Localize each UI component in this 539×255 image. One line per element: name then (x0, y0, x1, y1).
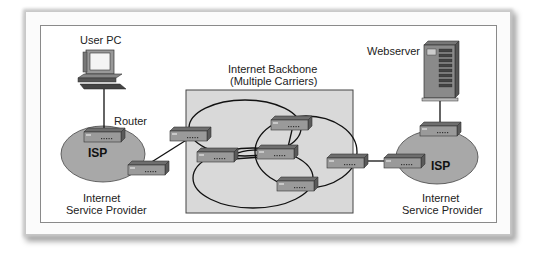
user-pc-icon (78, 50, 126, 89)
router-label: Router (114, 115, 147, 127)
backbone-router-2 (197, 148, 238, 162)
backbone-router-1 (170, 127, 211, 141)
webserver-label: Webserver (367, 45, 420, 57)
isp-right-caption-1: Internet (422, 192, 459, 204)
backbone-label-1: Internet Backbone (228, 63, 317, 75)
backbone-label-2: (Multiple Carriers) (230, 75, 317, 87)
isp-right-caption-2: Service Provider (402, 204, 483, 216)
isp-right-router-top (420, 122, 461, 136)
backbone-router-6 (277, 177, 318, 191)
backbone-router-3 (271, 116, 312, 130)
isp-right-label: ISP (431, 160, 450, 172)
backbone-router-4 (257, 145, 298, 159)
isp-right-router-edge (384, 154, 425, 168)
user-pc-label: User PC (80, 34, 122, 46)
isp-left-router-edge (128, 161, 169, 175)
backbone-router-5 (327, 154, 368, 168)
isp-left-router-top (84, 128, 125, 142)
isp-left-caption-2: Service Provider (66, 204, 147, 216)
isp-left-caption-1: Internet (83, 192, 120, 204)
isp-left-label: ISP (88, 147, 107, 159)
webserver-icon (422, 41, 459, 101)
